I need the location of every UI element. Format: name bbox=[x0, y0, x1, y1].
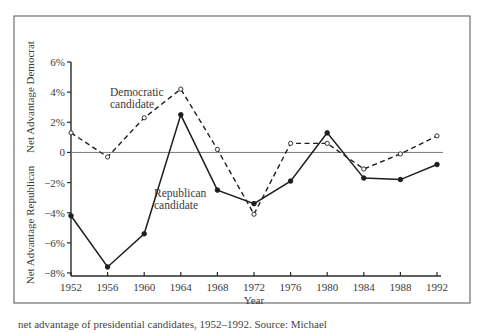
x-axis-title: Year bbox=[244, 294, 265, 306]
x-tick-label: 1988 bbox=[389, 281, 412, 293]
open-circle-marker bbox=[106, 155, 110, 159]
open-circle-marker bbox=[289, 141, 293, 145]
filled-circle-marker bbox=[179, 112, 184, 117]
x-tick-label: 1968 bbox=[206, 281, 229, 293]
filled-circle-marker bbox=[215, 188, 220, 193]
y-axis-title-republican: Net Advantage Republican bbox=[24, 165, 36, 284]
x-tick-label: 1984 bbox=[353, 281, 376, 293]
filled-circle-marker bbox=[325, 131, 330, 136]
filled-circle-marker bbox=[435, 162, 440, 167]
x-tick-label: 1992 bbox=[426, 281, 448, 293]
x-tick-label: 1976 bbox=[280, 281, 303, 293]
y-tick-label: 4% bbox=[50, 86, 65, 98]
x-tick-label: 1960 bbox=[133, 281, 156, 293]
filled-circle-marker bbox=[252, 201, 257, 206]
open-circle-marker bbox=[252, 212, 256, 216]
y-tick-label: −4% bbox=[44, 207, 65, 219]
open-circle-marker bbox=[142, 116, 146, 120]
democratic-candidate-label: Democraticcandidate bbox=[110, 86, 164, 110]
chart-figure: 6%4%2%0−2%−4%−6%−8%195219561960196419681… bbox=[0, 0, 483, 333]
open-circle-marker bbox=[398, 152, 402, 156]
x-tick-label: 1980 bbox=[316, 281, 339, 293]
y-tick-label: 2% bbox=[50, 116, 65, 128]
open-circle-marker bbox=[179, 87, 183, 91]
open-circle-marker bbox=[362, 167, 366, 171]
y-tick-label: −6% bbox=[44, 237, 65, 249]
axes: 6%4%2%0−2%−4%−6%−8%195219561960196419681… bbox=[44, 56, 448, 293]
x-tick-label: 1964 bbox=[170, 281, 193, 293]
x-tick-label: 1952 bbox=[60, 281, 82, 293]
filled-circle-marker bbox=[288, 179, 293, 184]
y-tick-label: 6% bbox=[50, 56, 65, 68]
series-annotations: DemocraticcandidateRepublicancandidate bbox=[110, 86, 207, 211]
open-circle-marker bbox=[215, 147, 219, 151]
filled-circle-marker bbox=[398, 177, 403, 182]
series-lines bbox=[69, 87, 440, 269]
filled-circle-marker bbox=[362, 176, 367, 181]
open-circle-marker bbox=[325, 141, 329, 145]
open-circle-marker bbox=[69, 131, 73, 135]
figure-caption: net advantage of presidential candidates… bbox=[18, 318, 483, 330]
filled-circle-marker bbox=[69, 213, 74, 218]
open-circle-marker bbox=[435, 134, 439, 138]
x-tick-label: 1956 bbox=[97, 281, 120, 293]
y-tick-label: −8% bbox=[44, 267, 65, 279]
filled-circle-marker bbox=[105, 265, 110, 270]
x-tick-label: 1972 bbox=[243, 281, 265, 293]
filled-circle-marker bbox=[142, 232, 147, 237]
y-tick-label: −2% bbox=[44, 177, 65, 189]
republican-candidate-label: Republicancandidate bbox=[154, 187, 207, 211]
figure-frame bbox=[14, 16, 470, 303]
y-tick-label: 0 bbox=[60, 146, 66, 158]
republican-series bbox=[69, 112, 440, 269]
y-axis-title-democrat: Net Advantage Democrat bbox=[24, 41, 36, 153]
